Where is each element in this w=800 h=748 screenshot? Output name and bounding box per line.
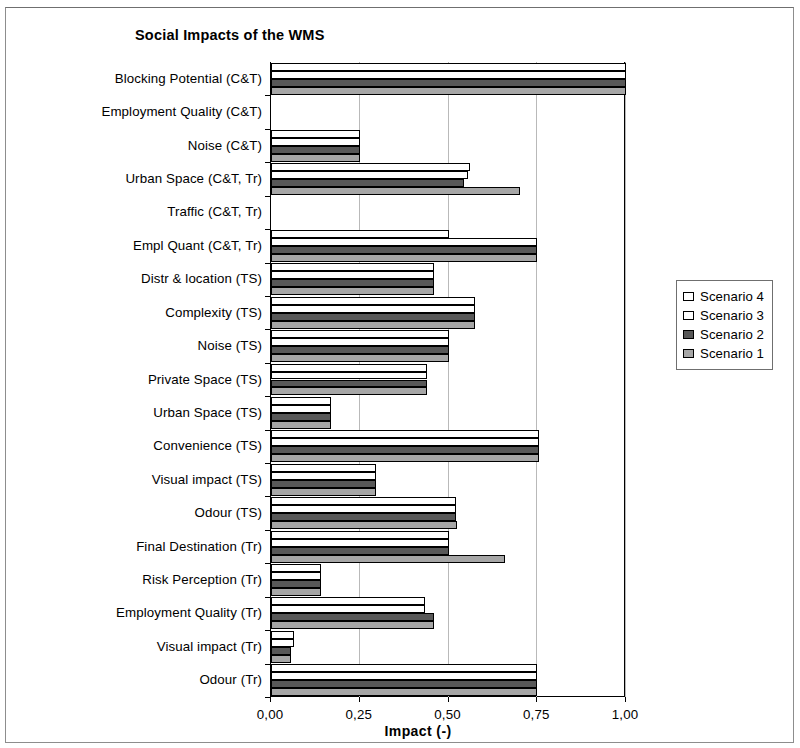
bar-scenario-3 <box>271 405 331 413</box>
bar-scenario-1 <box>271 588 321 596</box>
y-axis-tick <box>265 329 270 330</box>
y-axis-tick <box>265 229 270 230</box>
bar-scenario-1 <box>271 321 475 329</box>
y-axis-tick <box>265 196 270 197</box>
bar-scenario-3 <box>271 138 360 146</box>
bar-scenario-4 <box>271 397 331 405</box>
bar-scenario-3 <box>271 505 456 513</box>
bar-scenario-4 <box>271 130 360 138</box>
y-axis-tick <box>265 162 270 163</box>
x-axis-tick-label: 0,75 <box>523 707 550 722</box>
bar-scenario-2 <box>271 647 291 655</box>
x-axis-tick <box>270 697 271 702</box>
bar-scenario-2 <box>271 146 360 154</box>
bar-scenario-2 <box>271 613 434 621</box>
legend-label: Scenario 2 <box>700 327 764 342</box>
bar-scenario-1 <box>271 688 537 696</box>
x-axis-tick <box>625 697 626 702</box>
legend-item[interactable]: Scenario 1 <box>683 344 764 363</box>
bar-scenario-3 <box>271 438 539 446</box>
bar-scenario-3 <box>271 639 294 647</box>
bar-scenario-3 <box>271 372 427 380</box>
chart-page: Social Impacts of the WMS Blocking Poten… <box>0 0 800 748</box>
y-axis-tick <box>265 396 270 397</box>
bar-scenario-1 <box>271 87 626 95</box>
gridline <box>448 62 449 697</box>
x-axis-title-text: Impact (-) <box>385 723 452 739</box>
bar-scenario-4 <box>271 664 537 672</box>
legend-item[interactable]: Scenario 2 <box>683 325 764 344</box>
bar-scenario-1 <box>271 655 291 663</box>
legend-label: Scenario 1 <box>700 346 764 361</box>
bar-scenario-4 <box>271 497 456 505</box>
bar-scenario-4 <box>271 430 539 438</box>
category-label: Employment Quality (Tr) <box>116 606 262 619</box>
x-axis-title: Impact (-) <box>0 723 800 739</box>
bar-scenario-2 <box>271 380 427 388</box>
legend: Scenario 4Scenario 3Scenario 2Scenario 1 <box>676 280 773 370</box>
bar-scenario-4 <box>271 631 294 639</box>
bar-scenario-1 <box>271 621 434 629</box>
bar-scenario-3 <box>271 672 537 680</box>
gridline <box>536 62 537 697</box>
legend-swatch-icon <box>683 330 694 339</box>
category-label: Urban Space (C&T, Tr) <box>125 172 262 185</box>
bar-scenario-2 <box>271 580 321 588</box>
category-label: Risk Perception (Tr) <box>142 573 262 586</box>
y-axis-tick <box>265 563 270 564</box>
legend-swatch-icon <box>683 292 694 301</box>
gridline <box>625 62 626 697</box>
bar-scenario-3 <box>271 605 425 613</box>
category-label: Odour (Tr) <box>199 673 262 686</box>
category-label: Convenience (TS) <box>153 439 262 452</box>
x-axis-tick-label: 0,50 <box>434 707 461 722</box>
bar-scenario-4 <box>271 297 475 305</box>
plot-area <box>270 62 625 697</box>
legend-label: Scenario 4 <box>700 289 764 304</box>
x-axis-tick <box>359 697 360 702</box>
chart-title: Social Impacts of the WMS <box>135 27 325 43</box>
x-axis-tick-label: 1,00 <box>612 707 639 722</box>
bar-scenario-2 <box>271 313 475 321</box>
bar-scenario-1 <box>271 354 449 362</box>
bar-scenario-4 <box>271 263 434 271</box>
bar-scenario-3 <box>271 271 434 279</box>
y-axis-tick <box>265 664 270 665</box>
bar-scenario-2 <box>271 346 449 354</box>
bar-scenario-2 <box>271 246 537 254</box>
category-label: Noise (TS) <box>197 339 262 352</box>
y-axis-tick <box>265 630 270 631</box>
bar-scenario-1 <box>271 154 360 162</box>
bar-scenario-2 <box>271 179 464 187</box>
bar-scenario-2 <box>271 480 376 488</box>
category-label: Private Space (TS) <box>148 373 262 386</box>
bar-scenario-4 <box>271 163 470 171</box>
y-axis-tick <box>265 597 270 598</box>
category-label: Noise (C&T) <box>188 139 262 152</box>
bar-scenario-3 <box>271 238 537 246</box>
category-label: Employment Quality (C&T) <box>101 105 262 118</box>
legend-item[interactable]: Scenario 4 <box>683 287 764 306</box>
bar-scenario-4 <box>271 330 449 338</box>
bar-scenario-2 <box>271 446 539 454</box>
y-axis-tick <box>265 430 270 431</box>
legend-item[interactable]: Scenario 3 <box>683 306 764 325</box>
bar-scenario-3 <box>271 305 475 313</box>
legend-swatch-icon <box>683 349 694 358</box>
bar-scenario-2 <box>271 413 331 421</box>
bar-scenario-4 <box>271 63 626 71</box>
bar-scenario-3 <box>271 572 321 580</box>
x-axis-tick <box>448 697 449 702</box>
bar-scenario-1 <box>271 254 537 262</box>
bar-scenario-1 <box>271 488 376 496</box>
bar-scenario-4 <box>271 230 449 238</box>
bar-scenario-4 <box>271 364 427 372</box>
bar-scenario-2 <box>271 680 537 688</box>
bar-scenario-1 <box>271 187 520 195</box>
category-label: Complexity (TS) <box>165 306 262 319</box>
bar-scenario-4 <box>271 531 449 539</box>
y-axis-tick <box>265 129 270 130</box>
bar-scenario-1 <box>271 421 331 429</box>
category-label: Blocking Potential (C&T) <box>115 72 262 85</box>
y-axis-tick <box>265 263 270 264</box>
